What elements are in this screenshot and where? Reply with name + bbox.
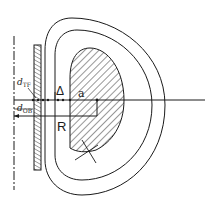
label-d-tf: dTF (17, 77, 31, 88)
tokamak-radial-build-diagram: dTF Δ a dOB R (0, 0, 212, 205)
label-d-ob: dOB (17, 103, 33, 114)
label-R: R (57, 119, 66, 134)
tf-coil-leg (34, 45, 41, 170)
label-delta: Δ (56, 84, 64, 98)
label-a: a (78, 87, 85, 100)
